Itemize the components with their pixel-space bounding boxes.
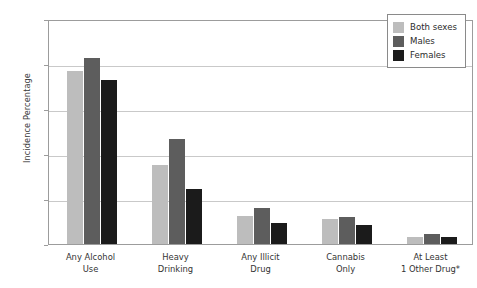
x-tick-label: At Least1 Other Drug*	[376, 252, 477, 275]
bar	[237, 216, 253, 244]
bar	[254, 208, 270, 244]
bar	[356, 225, 372, 244]
y-tick-mark	[44, 245, 48, 246]
legend-item: Males	[393, 34, 457, 48]
y-axis-title: Incidence Percentage	[22, 48, 32, 188]
bar	[322, 219, 338, 244]
bar	[152, 165, 168, 244]
legend-label: Both sexes	[410, 22, 457, 32]
bar-chart: Incidence Percentage 020406080100 Any Al…	[0, 0, 477, 288]
bar-group	[49, 21, 134, 244]
bar	[101, 80, 117, 244]
bar	[271, 223, 287, 244]
legend-item: Both sexes	[393, 20, 457, 34]
bar	[441, 237, 457, 244]
legend-swatch	[393, 50, 404, 61]
bar	[84, 58, 100, 244]
bar	[67, 71, 83, 244]
chart-legend: Both sexesMalesFemales	[387, 14, 466, 68]
bar	[186, 189, 202, 244]
legend-swatch	[393, 36, 404, 47]
bar	[424, 234, 440, 244]
bar	[407, 237, 423, 244]
bar-group	[134, 21, 219, 244]
legend-swatch	[393, 22, 404, 33]
legend-label: Females	[410, 50, 446, 60]
bar-group	[304, 21, 389, 244]
legend-item: Females	[393, 48, 457, 62]
bar	[339, 217, 355, 244]
bar-group	[219, 21, 304, 244]
bar	[169, 139, 185, 244]
legend-label: Males	[410, 36, 435, 46]
